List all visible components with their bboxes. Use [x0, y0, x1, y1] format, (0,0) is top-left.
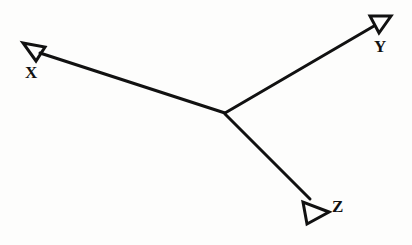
axis-y-arrowhead-icon: [370, 16, 391, 33]
axis-x-group: [23, 43, 225, 113]
axis-y-group: [225, 16, 391, 113]
axis-label-y: Y: [374, 38, 386, 55]
axis-label-x: X: [25, 64, 37, 81]
axis-z-group: [225, 114, 329, 224]
axis-z-line: [225, 114, 310, 199]
axes-vector-graphic: [0, 0, 412, 245]
axis-x-line: [40, 53, 225, 113]
axis-y-line: [225, 26, 374, 113]
axis-label-z: Z: [332, 198, 343, 215]
axis-x-arrowhead-icon: [23, 43, 45, 61]
axis-z-arrowhead-icon: [303, 202, 329, 224]
axis-diagram-canvas: X Y Z: [0, 0, 412, 245]
